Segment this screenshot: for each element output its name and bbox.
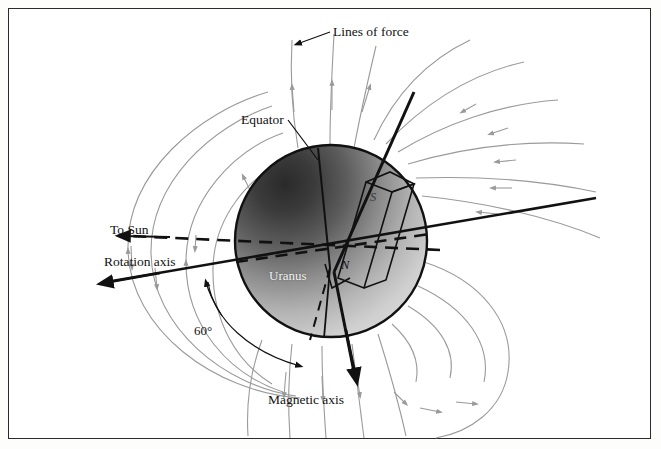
leader-lines-of-force [297,32,330,44]
field-line [248,340,262,436]
field-line-arrow [462,104,476,112]
field-line-arrow [456,402,476,404]
field-line-arrow [420,408,440,412]
figure-root: Lines of force Equator To Sun Rotation a… [0,0,661,449]
field-line [408,143,584,164]
label-lines-of-force: Lines of force [333,24,409,40]
label-tilt-angle: 60° [194,323,212,339]
label-south-pole: S [370,190,376,205]
field-line [398,100,558,152]
field-line [408,306,451,378]
field-line-arrow [490,128,508,134]
field-line-arrow [478,212,498,214]
field-line [386,62,524,144]
field-line [416,178,596,192]
diagram-canvas [0,0,661,449]
field-line [378,334,406,436]
label-planet-uranus: Uranus [269,268,307,284]
field-line [352,344,364,438]
field-line [392,324,417,382]
label-north-pole: N [341,258,349,273]
label-equator: Equator [241,112,284,128]
field-line [289,344,292,438]
field-line-arrow [195,235,196,250]
label-to-sun: To Sun [110,222,148,238]
field-line [374,40,470,140]
label-magnetic-axis: Magnetic axis [268,392,344,408]
diagram-svg [0,0,661,449]
field-line-arrow [496,160,516,162]
label-rotation-axis: Rotation axis [104,254,176,270]
field-line [354,46,376,148]
